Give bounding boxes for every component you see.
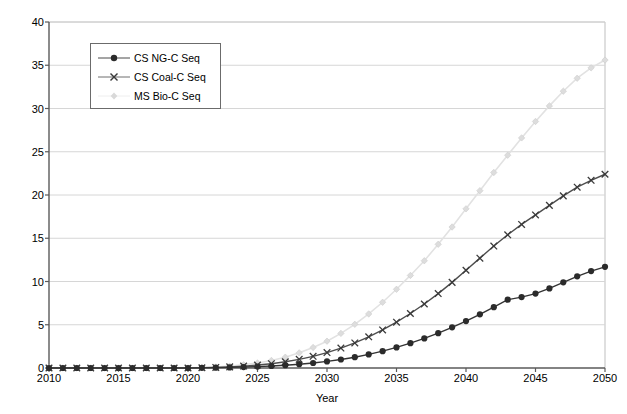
x-tick-label: 2015 — [106, 372, 130, 384]
x-tick-label: 2040 — [454, 372, 478, 384]
y-tick-label: 40 — [16, 17, 44, 28]
y-tick-label: 5 — [16, 320, 44, 331]
x-tick-label: 2020 — [176, 372, 200, 384]
y-tick-label: 25 — [16, 147, 44, 158]
y-tick-label: 10 — [16, 277, 44, 288]
x-axis-title: Year — [49, 392, 605, 404]
legend-swatch-cs-ng-c-seq — [97, 52, 131, 64]
y-tick-label: 30 — [16, 104, 44, 115]
legend-swatch-ms-bio-c-seq — [97, 90, 131, 102]
legend-label-cs-ng-c-seq: CS NG-C Seq — [131, 52, 200, 64]
y-tick-label: 20 — [16, 190, 44, 201]
x-tick-label: 2025 — [245, 372, 269, 384]
chart-legend: CS NG-C Seq CS Coal-C Seq — [90, 43, 221, 109]
legend-item-1: CS Coal-C Seq — [91, 67, 220, 86]
legend-label-cs-coal-c-seq: CS Coal-C Seq — [131, 71, 206, 83]
series-cs-ng-c-seq — [46, 264, 608, 371]
y-tick-label: 15 — [16, 233, 44, 244]
x-tick-label: 2045 — [523, 372, 547, 384]
y-tick-label: 35 — [16, 60, 44, 71]
legend-label-ms-bio-c-seq: MS Bio-C Seq — [131, 90, 201, 102]
x-tick-label: 2010 — [37, 372, 61, 384]
x-tick-label: 2030 — [315, 372, 339, 384]
legend-swatch-cs-coal-c-seq — [97, 71, 131, 83]
legend-item-0: CS NG-C Seq — [91, 48, 220, 67]
line-chart: Cumulative metric tons of carbon dioxide… — [0, 0, 627, 414]
x-tick-label: 2035 — [384, 372, 408, 384]
legend-item-2: MS Bio-C Seq — [91, 86, 220, 105]
x-tick-label: 2050 — [593, 372, 617, 384]
